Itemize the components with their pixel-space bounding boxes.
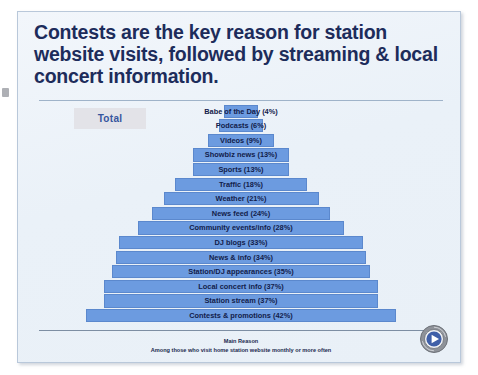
pyramid-bar-chart: Babe of the Day (4%)Podcasts (6%)Videos … <box>39 104 443 328</box>
chart-bar-row: Community events/info (28%) <box>39 221 443 236</box>
chart-bar <box>164 192 319 205</box>
chart-bar <box>193 163 289 176</box>
chart-bar <box>175 178 308 191</box>
chart-bar-row: Babe of the Day (4%) <box>39 104 443 119</box>
chart-bar-row: News feed (24%) <box>39 206 443 221</box>
chart-bar-row: Videos (9%) <box>39 133 443 148</box>
chart-bar-row: News & info (34%) <box>39 250 443 265</box>
chart-bar-row: Weather (21%) <box>39 192 443 207</box>
chart-bar-row: Sports (13%) <box>39 162 443 177</box>
computer-play-badge-icon <box>419 324 449 354</box>
chart-bar-row: Traffic (18%) <box>39 177 443 192</box>
chart-bar-row: Podcasts (6%) <box>39 119 443 134</box>
chart-bar <box>112 265 370 278</box>
title-divider <box>39 100 443 101</box>
chart-bar-row: Contests & promotions (42%) <box>39 308 443 323</box>
footnote-main-reason: Main Reason <box>39 337 443 346</box>
chart-bar-row: Station stream (37%) <box>39 294 443 309</box>
chart-bar <box>152 207 329 220</box>
chart-bar <box>208 134 274 147</box>
chart-bar <box>104 280 377 293</box>
chart-bar <box>224 105 258 118</box>
chart-bar <box>116 251 367 264</box>
chart-bar <box>86 309 396 322</box>
chart-bar-row: DJ blogs (33%) <box>39 235 443 250</box>
slide-title: Contests are the key reason for station … <box>34 21 448 87</box>
chart-bar <box>104 294 377 307</box>
chart-bar-row: Showbiz news (13%) <box>39 148 443 163</box>
chart-bar <box>119 236 363 249</box>
chart-bar-row: Station/DJ appearances (35%) <box>39 265 443 280</box>
chart-bar-row: Local concert info (37%) <box>39 279 443 294</box>
footer-divider <box>39 330 443 331</box>
chart-bar <box>219 119 263 132</box>
footnote-base-description: Among those who visit home station websi… <box>39 346 443 355</box>
presentation-slide: Contests are the key reason for station … <box>17 11 461 363</box>
chart-footnote: Main Reason Among those who visit home s… <box>39 337 443 354</box>
scan-artifact <box>2 88 9 97</box>
chart-bar <box>193 148 289 161</box>
chart-bar <box>138 221 345 234</box>
